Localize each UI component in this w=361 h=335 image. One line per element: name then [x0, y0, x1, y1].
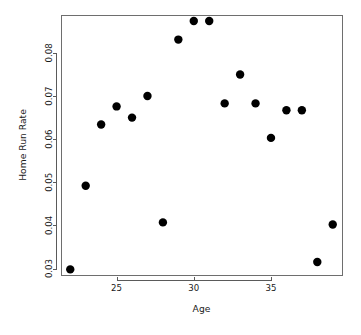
y-axis-title: Home Run Rate	[17, 109, 28, 181]
y-tick-label: 0.06	[44, 130, 54, 149]
data-point	[205, 17, 213, 25]
data-point	[190, 17, 198, 25]
y-tick-label: 0.07	[44, 86, 54, 105]
x-tick-label: 35	[266, 283, 277, 293]
data-point	[159, 218, 167, 226]
x-tick-label: 25	[111, 283, 122, 293]
data-point	[97, 120, 105, 128]
data-point	[236, 70, 244, 78]
data-point	[329, 220, 337, 228]
data-point	[82, 182, 90, 190]
y-tick-label: 0.08	[44, 43, 54, 62]
plot-canvas: 0.030.040.050.060.070.08 253035 AgeHome …	[0, 0, 361, 335]
data-point	[220, 99, 228, 107]
x-axis-title: Age	[193, 303, 211, 314]
y-tick-label: 0.03	[44, 259, 54, 278]
data-point	[282, 106, 290, 114]
data-point	[174, 35, 182, 43]
data-point	[66, 265, 74, 273]
y-tick-label: 0.05	[44, 173, 54, 192]
scatter-plot-figure: 0.030.040.050.060.070.08 253035 AgeHome …	[0, 0, 361, 335]
plot-background	[0, 0, 361, 335]
data-point	[298, 106, 306, 114]
data-point	[128, 113, 136, 121]
data-point	[267, 134, 275, 142]
data-point	[313, 258, 321, 266]
data-point	[112, 102, 120, 110]
data-point	[143, 92, 151, 100]
x-tick-label: 30	[188, 283, 199, 293]
y-tick-label: 0.04	[44, 216, 54, 235]
data-point	[251, 99, 259, 107]
